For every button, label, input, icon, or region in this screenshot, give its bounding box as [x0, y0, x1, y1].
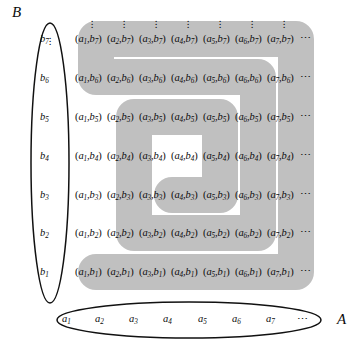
- set-a-tick: a4: [163, 313, 172, 326]
- set-a-ellipsis: ⋯: [297, 313, 308, 326]
- countability-diagram: (a1,b7)(a2,b7)(a3,b7)(a4,b7)(a5,b7)(a6,b…: [0, 0, 356, 346]
- set-b-tick: b4: [40, 150, 49, 163]
- set-b-ellipsis: ...: [46, 34, 54, 43]
- set-b-tick: b1: [40, 266, 49, 279]
- set-b-label: B: [12, 4, 21, 21]
- set-b-tick: b6: [40, 72, 49, 85]
- set-b-tick: b5: [40, 111, 49, 124]
- set-ovals: [0, 0, 356, 346]
- set-a-tick: a7: [266, 313, 275, 326]
- set-a-tick: a5: [198, 313, 207, 326]
- set-a-tick: a2: [95, 313, 104, 326]
- set-a-label: A: [337, 311, 346, 328]
- set-b-oval: [31, 23, 69, 303]
- set-a-tick: a6: [232, 313, 241, 326]
- set-b-tick: b3: [40, 189, 49, 202]
- set-b-tick: b2: [40, 227, 49, 240]
- set-a-tick: a3: [129, 313, 138, 326]
- set-a-tick: a1: [62, 313, 71, 326]
